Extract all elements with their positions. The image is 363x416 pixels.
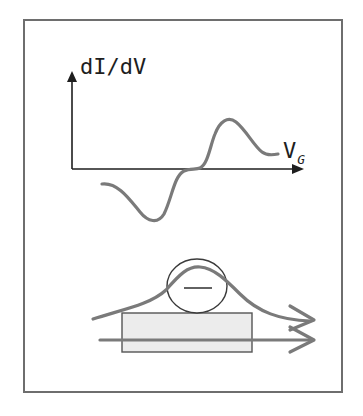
y-axis [67,71,77,169]
y-axis-label: dI/dV [80,54,146,79]
channel-block [122,313,252,352]
y-axis-arrow-icon [67,71,77,82]
x-axis-label: VG [283,138,305,163]
didv-curve [102,119,278,220]
diagram-canvas [0,0,363,416]
curved-arrow-head-icon [290,306,314,330]
x-axis-label-subscript: G [297,152,305,167]
x-axis-label-main: V [283,138,296,163]
